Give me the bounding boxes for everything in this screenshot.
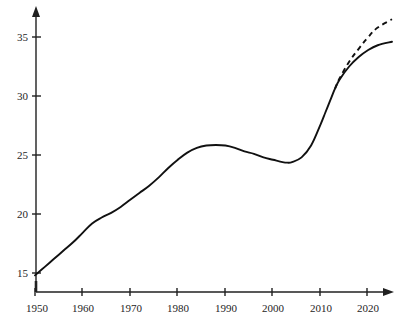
- y-tick-label-25: 25: [17, 149, 29, 161]
- x-tick-label-1990: 1990: [215, 302, 238, 314]
- y-tick-label-35: 35: [17, 31, 29, 43]
- x-axis-tick-labels: 1950 1960 1970 1980 1990 2000 2010 2020: [26, 302, 380, 314]
- x-tick-label-1970: 1970: [120, 302, 143, 314]
- line-chart: 35 30 25 20 15 1950 1960 1970 1980 1990 …: [0, 0, 402, 324]
- x-tick-label-2010: 2010: [310, 302, 333, 314]
- series-line-observed: [35, 42, 392, 276]
- x-axis-arrow-icon: [383, 288, 394, 296]
- x-tick-label-1980: 1980: [167, 302, 190, 314]
- y-axis-tick-labels: 35 30 25 20 15: [17, 31, 29, 279]
- y-tick-label-20: 20: [17, 208, 29, 220]
- x-tick-label-1950: 1950: [26, 302, 49, 314]
- x-tick-label-1960: 1960: [72, 302, 95, 314]
- x-tick-label-2020: 2020: [357, 302, 380, 314]
- y-tick-label-15: 15: [17, 267, 29, 279]
- chart-container: 35 30 25 20 15 1950 1960 1970 1980 1990 …: [0, 0, 402, 324]
- x-tick-label-2000: 2000: [262, 302, 285, 314]
- y-axis-arrow-icon: [32, 6, 40, 17]
- y-tick-label-30: 30: [17, 90, 29, 102]
